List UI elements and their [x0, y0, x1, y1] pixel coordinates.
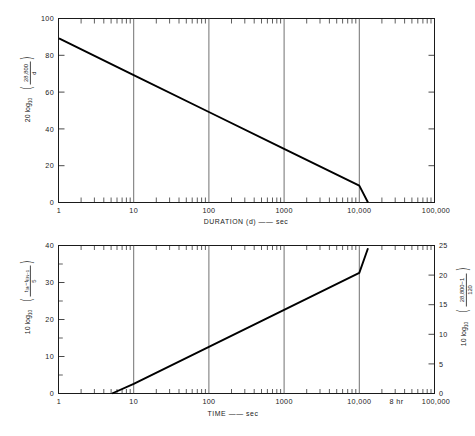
top-ylabel-denominator: d — [31, 71, 37, 74]
svg-text:10 log10: 10 log10 — [24, 309, 33, 334]
bottom-ylabel-paren-open: ( — [17, 299, 35, 301]
bottom-y-ticklabels-left: 0 10 20 30 40 — [45, 241, 54, 398]
bottom-xtick-1000: 1000 — [275, 397, 292, 406]
top-chart: 0 20 40 60 80 100 1 10 100 1000 10,000 1… — [19, 14, 451, 226]
svg-text:t3h−tEN−1: t3h−tEN−1 — [23, 269, 31, 292]
top-ytick-0: 0 — [50, 198, 54, 207]
top-ytick-60: 60 — [45, 88, 54, 97]
bottom-ytick-10: 10 — [45, 352, 54, 361]
top-gridlines — [134, 19, 360, 203]
charts-svg: 0 20 40 60 80 100 1 10 100 1000 10,000 1… — [0, 0, 475, 436]
bottom-ytick-r20: 20 — [439, 271, 448, 280]
bottom-ytick-40: 40 — [45, 241, 54, 250]
top-y-ticks — [59, 19, 435, 203]
top-xtick-1: 1 — [57, 206, 61, 215]
bottom-x-ticklabels: 1 10 100 1000 10,000 8 hr 100,000 — [57, 397, 450, 406]
bottom-ylabel-base: 10 — [28, 309, 33, 315]
bottom-ytick-r10: 10 — [439, 330, 448, 339]
svg-text:10 log10: 10 log10 — [460, 321, 469, 346]
top-ylabel-paren-close: ) — [19, 57, 34, 59]
top-ylabel-base: 10 — [28, 97, 33, 103]
bottom-ylabel-r-numerator: 28,800−1 — [459, 278, 465, 302]
bottom-ytick-r15: 15 — [439, 300, 448, 309]
bottom-ytick-r5: 5 — [439, 360, 443, 369]
top-ylabel-numerator: 28,800 — [23, 64, 29, 82]
bottom-ylabel-paren-close: ) — [17, 261, 35, 263]
top-plot-frame — [59, 19, 435, 203]
bottom-x-axis-label: TIME —— sec — [208, 410, 259, 417]
top-ylabel-paren-open: ( — [19, 87, 34, 89]
top-ytick-20: 20 — [45, 161, 54, 170]
svg-text:20 log10: 20 log10 — [24, 97, 33, 122]
bottom-data-line — [112, 248, 368, 393]
figure-container: 0 20 40 60 80 100 1 10 100 1000 10,000 1… — [0, 0, 475, 436]
bottom-xtick-100000: 100,000 — [422, 397, 450, 406]
bottom-xtick-100: 100 — [202, 397, 215, 406]
bottom-y-ticklabels-right: 0 5 10 15 20 25 — [439, 241, 448, 398]
bottom-xtick-10000: 10,000 — [347, 397, 371, 406]
bottom-ylabel-denominator: 5 — [31, 279, 37, 282]
top-x-ticklabels: 1 10 100 1000 10,000 100,000 — [57, 206, 450, 215]
bottom-ylabel-r-denominator: 120 — [467, 285, 473, 295]
bottom-chart: 0 10 20 30 40 0 5 10 15 20 25 1 10 100 1… — [17, 241, 473, 417]
top-xtick-100: 100 — [202, 206, 215, 215]
bottom-ytick-r25: 25 — [439, 241, 448, 250]
top-xtick-100000: 100,000 — [422, 206, 450, 215]
top-xtick-10: 10 — [129, 206, 138, 215]
bottom-ylabel-prefix: 10 log — [24, 315, 32, 334]
bottom-plot-frame — [59, 246, 435, 394]
top-x-axis-label: DURATION (d) —— sec — [204, 218, 289, 226]
bottom-ytick-0: 0 — [50, 389, 54, 398]
top-ytick-40: 40 — [45, 125, 54, 134]
bottom-xtick-1: 1 — [57, 397, 61, 406]
bottom-y-axis-label-left: 10 log10 ( ) t3h−tEN−1 5 — [17, 261, 37, 334]
bottom-ylabel-r-paren-close: ) — [453, 268, 471, 270]
bottom-ylabel-r-paren-open: ( — [453, 310, 471, 312]
bottom-xtick-8hr: 8 hr — [390, 397, 404, 406]
bottom-ylabel-r-prefix: 10 log — [460, 327, 468, 346]
bottom-y-ticks-left — [59, 246, 65, 394]
bottom-xtick-10: 10 — [129, 397, 138, 406]
bottom-ytick-30: 30 — [45, 278, 54, 287]
top-ytick-100: 100 — [41, 14, 54, 23]
top-ytick-80: 80 — [45, 51, 54, 60]
bottom-ytick-20: 20 — [45, 315, 54, 324]
bottom-ylabel-r-base: 10 — [464, 321, 469, 327]
top-xtick-1000: 1000 — [275, 206, 292, 215]
bottom-y-ticks-right — [429, 246, 435, 394]
top-xtick-10000: 10,000 — [347, 206, 371, 215]
top-y-axis-label: 20 log10 ( ) 28,800 d — [19, 57, 38, 123]
bottom-gridlines — [134, 246, 360, 394]
bottom-ylabel-num-b-sub: EN−1 — [25, 269, 30, 280]
top-ylabel-prefix: 20 log — [24, 103, 32, 122]
top-data-line — [59, 38, 368, 202]
top-y-ticklabels: 0 20 40 60 80 100 — [41, 14, 54, 207]
bottom-y-axis-label-right: 10 log10 ( ) 28,800−1 120 — [453, 268, 473, 346]
